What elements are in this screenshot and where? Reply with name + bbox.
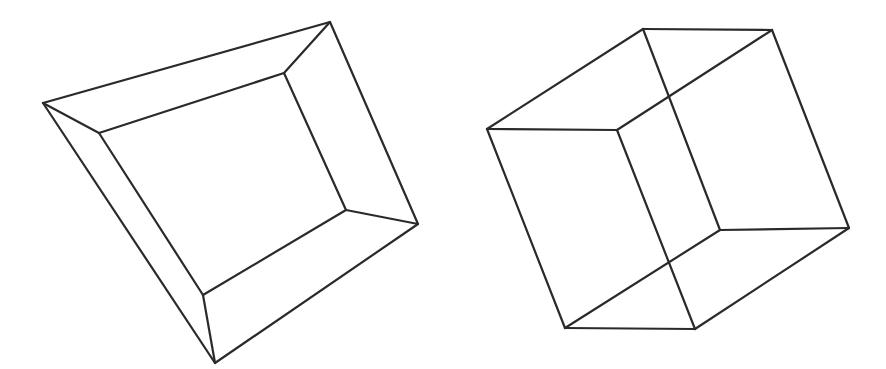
cube-edge [487,129,617,130]
corner-edge [346,210,418,224]
necker-cube [487,29,849,329]
cube-edge [617,130,695,329]
corner-edge [284,22,330,73]
corner-edge [43,103,99,133]
cube-edge [487,29,643,129]
cube-edge [617,30,772,130]
cube-edge [487,129,565,328]
cube-edge [565,230,720,328]
truncated-pyramid-frame [43,22,418,363]
cube-edge [720,228,849,230]
diagram-canvas [0,0,886,369]
inner-quad [99,73,346,295]
cube-edge [772,30,849,228]
outer-quad [43,22,418,363]
cube-edge [695,228,849,329]
cube-edge [643,29,772,30]
cube-edge [643,29,720,230]
cube-edge [565,328,695,329]
